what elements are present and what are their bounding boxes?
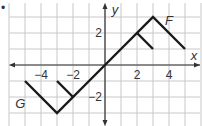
x-tick-label: 4 bbox=[166, 68, 173, 82]
x-tick-label: −4 bbox=[34, 68, 48, 82]
series-label-F: F bbox=[165, 13, 174, 28]
y-tick-label: −2 bbox=[88, 90, 102, 104]
y-axis-arrow-down bbox=[103, 120, 108, 126]
series-G-segment bbox=[57, 81, 73, 97]
problem-bullet: • bbox=[1, 1, 5, 15]
x-tick-label: −2 bbox=[66, 68, 80, 82]
coordinate-plane: −4−2242−2xyFG • bbox=[0, 0, 202, 126]
y-axis-arrow-up bbox=[103, 3, 108, 9]
x-axis-arrow-right bbox=[194, 63, 200, 68]
series-F-segment bbox=[137, 33, 153, 49]
labels: −4−2242−2xyFG bbox=[15, 2, 198, 111]
y-tick-label: 2 bbox=[95, 26, 102, 40]
x-axis-label: x bbox=[190, 48, 198, 63]
x-axis-arrow-left bbox=[9, 63, 15, 68]
series-label-G: G bbox=[15, 96, 25, 111]
x-tick-label: 2 bbox=[134, 68, 141, 82]
y-axis-label: y bbox=[111, 2, 120, 17]
